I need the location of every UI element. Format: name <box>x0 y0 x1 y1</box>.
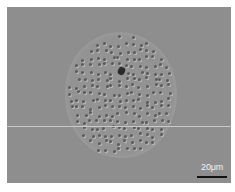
surface-pit <box>139 48 142 51</box>
surface-pit <box>105 49 108 52</box>
surface-pit <box>110 51 113 54</box>
surface-pit <box>132 99 135 102</box>
surface-pit <box>117 45 120 48</box>
surface-pit <box>81 105 84 108</box>
surface-pit <box>75 105 78 108</box>
surface-pit <box>151 141 154 144</box>
surface-pit <box>160 100 163 103</box>
surface-pit <box>146 94 149 97</box>
surface-pit <box>151 128 154 131</box>
surface-pit <box>145 55 148 58</box>
surface-pit <box>75 70 78 73</box>
surface-pit <box>91 79 94 82</box>
surface-pit <box>97 73 100 76</box>
surface-pit <box>90 58 93 61</box>
surface-pit <box>98 134 101 137</box>
surface-pit <box>106 85 109 88</box>
surface-pit <box>160 73 163 76</box>
surface-pit <box>146 85 149 88</box>
surface-pit <box>127 51 130 54</box>
scale-bar <box>197 176 227 178</box>
surface-pit <box>155 83 158 86</box>
surface-pit <box>104 135 107 138</box>
surface-pit <box>132 36 135 39</box>
surface-pit <box>91 84 94 87</box>
surface-pit <box>83 122 86 125</box>
surface-pit <box>126 58 129 61</box>
surface-pit <box>75 64 78 67</box>
surface-pit <box>104 99 107 102</box>
surface-pit <box>165 112 168 115</box>
surface-pit <box>130 134 133 137</box>
surface-pit <box>158 112 161 115</box>
surface-pit <box>113 94 116 97</box>
surface-pit <box>133 77 136 80</box>
surface-pit <box>131 141 134 144</box>
surface-pit <box>132 43 135 46</box>
surface-pit <box>89 139 92 142</box>
surface-pit <box>145 42 148 45</box>
surface-pit <box>103 93 106 96</box>
surface-pit <box>117 143 120 146</box>
surface-pit <box>139 147 142 150</box>
surface-pit <box>117 147 120 150</box>
surface-pit <box>140 44 143 47</box>
surface-pit <box>160 84 163 87</box>
surface-pit <box>139 132 142 135</box>
particle-disc <box>65 32 177 158</box>
surface-pit <box>133 147 136 150</box>
surface-pit <box>138 115 141 118</box>
surface-pit <box>125 64 128 67</box>
surface-pit <box>77 90 80 93</box>
surface-pit <box>89 63 92 66</box>
surface-pit <box>92 135 95 138</box>
surface-pit <box>116 112 119 115</box>
surface-pit <box>68 86 71 89</box>
surface-pit <box>141 71 144 74</box>
surface-pit <box>116 120 119 123</box>
surface-pit <box>109 119 112 122</box>
surface-pit <box>167 83 170 86</box>
surface-pit <box>139 107 142 110</box>
surface-pit <box>125 111 128 114</box>
surface-pit <box>81 63 84 66</box>
surface-pit <box>96 44 99 47</box>
surface-pit <box>102 127 105 130</box>
surface-pit <box>145 66 148 69</box>
surface-pit <box>133 58 136 61</box>
surface-pit <box>109 140 112 143</box>
surface-pit <box>118 80 121 83</box>
surface-pit <box>109 45 112 48</box>
surface-pit <box>104 149 107 152</box>
surface-pit <box>103 42 106 45</box>
surface-pit <box>109 99 112 102</box>
surface-pit <box>116 56 119 59</box>
surface-pit <box>159 63 162 66</box>
surface-pit <box>123 139 126 142</box>
surface-pit <box>91 128 94 131</box>
surface-pit <box>96 128 99 131</box>
scan-line-artifact <box>7 126 231 127</box>
surface-pit <box>169 92 172 95</box>
surface-pit <box>166 79 169 82</box>
surface-pit <box>168 72 171 75</box>
surface-pit <box>146 101 149 104</box>
surface-pit <box>81 71 84 74</box>
surface-pit <box>75 99 78 102</box>
surface-pit <box>104 71 107 74</box>
surface-pit <box>137 98 140 101</box>
surface-pit <box>89 111 92 114</box>
surface-pit <box>139 65 142 68</box>
surface-pit <box>167 97 170 100</box>
surface-pit <box>109 84 112 87</box>
surface-pit <box>137 86 140 89</box>
surface-pit <box>154 73 157 76</box>
surface-pit <box>125 42 128 45</box>
surface-pit <box>103 58 106 61</box>
surface-pit <box>160 58 163 61</box>
surface-pit <box>90 71 93 74</box>
surface-pit <box>141 121 144 124</box>
surface-pit <box>145 121 148 124</box>
surface-pit <box>145 76 148 79</box>
surface-pit <box>104 104 107 107</box>
